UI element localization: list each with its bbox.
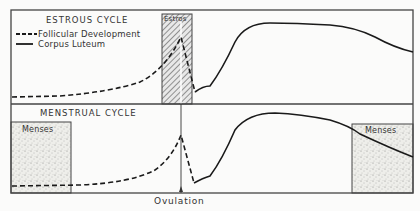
estrous-corpus-luteum-curve [195, 23, 413, 92]
legend-follicular-label: Follicular Development [38, 29, 140, 39]
estrous-cycle-title: ESTROUS CYCLE [46, 15, 128, 25]
legend-corpus-luteum-label: Corpus Luteum [38, 39, 105, 49]
menses-left-label: Menses [22, 125, 53, 134]
estros-label: Estros [164, 15, 187, 23]
menses-right-label: Menses [365, 126, 396, 135]
estros-band [162, 14, 192, 104]
ovulation-arrow-icon [179, 186, 183, 192]
menstrual-cycle-title: MENSTRUAL CYCLE [40, 108, 137, 118]
ovulation-label: Ovulation [154, 196, 205, 206]
